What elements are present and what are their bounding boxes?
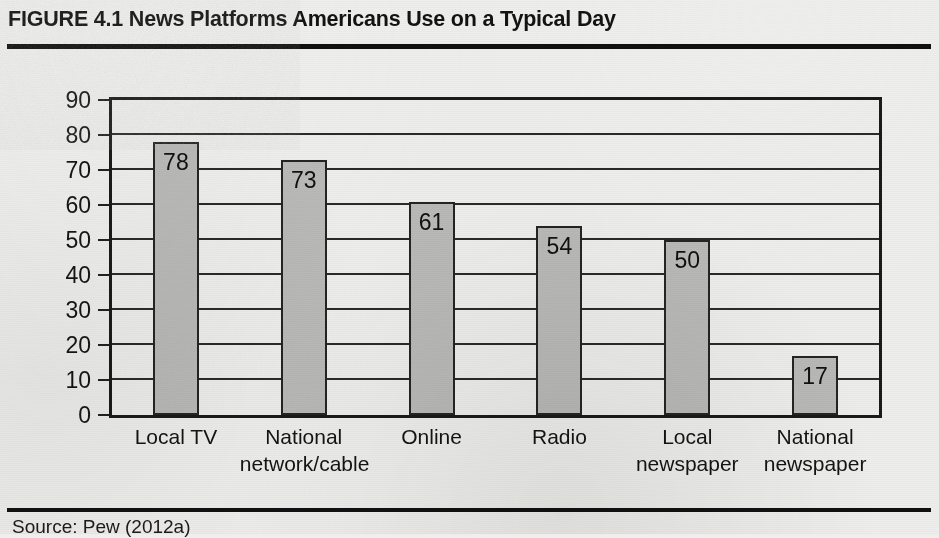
x-tick-label-line: Local TV [112, 424, 240, 451]
x-tick-label-line: National [240, 424, 368, 451]
figure-top-rule [7, 44, 931, 49]
figure-title-text: FIGURE 4.1 News Platforms Americans Use … [8, 7, 616, 32]
y-tick-mark [98, 169, 109, 171]
gridline [112, 133, 879, 135]
bar: 73 [281, 160, 327, 416]
figure-source: Source: Pew (2012a) [12, 516, 191, 538]
bar-value-label: 50 [674, 249, 700, 413]
x-tick-label-line: National [751, 424, 879, 451]
x-tick-label-line: Local [623, 424, 751, 451]
x-tick-label-line: Online [368, 424, 496, 451]
gridline [112, 168, 879, 170]
y-tick-mark [98, 134, 109, 136]
x-tick-label: Nationalnewspaper [751, 424, 879, 478]
y-tick-label: 50 [45, 229, 91, 252]
y-tick-label: 30 [45, 299, 91, 322]
x-tick-label: Localnewspaper [623, 424, 751, 478]
bar: 78 [153, 142, 199, 415]
gridline [112, 308, 879, 310]
bar-value-label: 54 [547, 235, 573, 413]
gridline [112, 203, 879, 205]
y-tick-mark [98, 309, 109, 311]
y-axis-ticks: 0102030405060708090 [47, 97, 109, 418]
y-tick-label: 70 [45, 159, 91, 182]
bar: 61 [409, 202, 455, 416]
bar: 17 [792, 356, 838, 416]
y-tick-mark [98, 344, 109, 346]
x-tick-label-line: newspaper [623, 451, 751, 478]
bar: 54 [536, 226, 582, 415]
bar-value-label: 17 [802, 365, 828, 414]
x-tick-label-line: network/cable [240, 451, 368, 478]
x-axis-labels: Local TVNationalnetwork/cableOnlineRadio… [109, 424, 882, 486]
y-tick-label: 10 [45, 369, 91, 392]
y-tick-mark [98, 239, 109, 241]
y-axis-title-text: % of Adults (18+) [0, 109, 1, 287]
y-tick-mark [98, 204, 109, 206]
y-tick-mark [98, 414, 109, 416]
y-tick-label: 40 [45, 264, 91, 287]
bar-value-label: 78 [163, 151, 189, 413]
gridline [112, 378, 879, 380]
bar: 50 [664, 240, 710, 415]
y-tick-label: 0 [45, 404, 91, 427]
gridline [112, 343, 879, 345]
y-tick-label: 80 [45, 124, 91, 147]
bar-value-label: 73 [291, 169, 317, 414]
bar-value-label: 61 [419, 211, 445, 414]
y-tick-mark [98, 99, 109, 101]
x-tick-label-line: newspaper [751, 451, 879, 478]
x-tick-label-line: Radio [496, 424, 624, 451]
gridline [112, 273, 879, 275]
gridline [112, 238, 879, 240]
figure-title: FIGURE 4.1 News Platforms Americans Use … [8, 2, 908, 36]
x-tick-label: Local TV [112, 424, 240, 451]
x-tick-label: Online [368, 424, 496, 451]
chart-plot-area: 787361545017 [109, 97, 882, 418]
x-tick-label: Nationalnetwork/cable [240, 424, 368, 478]
y-tick-mark [98, 274, 109, 276]
figure-bottom-rule [7, 508, 931, 512]
x-tick-label: Radio [496, 424, 624, 451]
y-tick-label: 90 [45, 89, 91, 112]
y-tick-label: 20 [45, 334, 91, 357]
y-axis-title: % of Adults (18+) [0, 48, 3, 348]
y-tick-mark [98, 379, 109, 381]
y-tick-label: 60 [45, 194, 91, 217]
